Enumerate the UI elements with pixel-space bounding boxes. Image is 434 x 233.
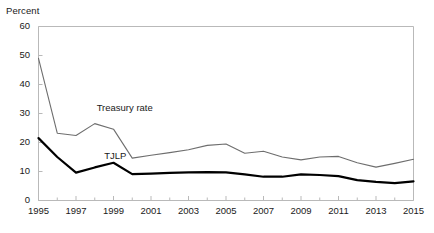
x-axis-tick-label: 1997: [59, 205, 93, 216]
x-axis-tick-label: 2015: [397, 205, 431, 216]
x-axis-tick-label: 2007: [247, 205, 281, 216]
y-axis-tick-label: 0: [8, 194, 30, 205]
series-annotation-label: TJLP: [104, 150, 126, 161]
y-axis-tick-label: 20: [8, 136, 30, 147]
x-axis-tick-label: 2005: [209, 205, 243, 216]
series-annotation-label: Treasury rate: [97, 102, 153, 113]
x-axis-tick-label: 2013: [359, 205, 393, 216]
y-axis-tick-label: 10: [8, 165, 30, 176]
y-axis-tick-label: 60: [8, 20, 30, 31]
x-axis-tick-label: 2001: [134, 205, 168, 216]
y-axis-tick-label: 30: [8, 107, 30, 118]
y-axis-tick-label: 50: [8, 49, 30, 60]
x-axis-tick-label: 2003: [172, 205, 206, 216]
x-axis-tick-label: 1999: [97, 205, 131, 216]
y-axis-tick-label: 40: [8, 78, 30, 89]
x-axis-tick-label: 2009: [284, 205, 318, 216]
x-axis-tick-label: 1995: [22, 205, 56, 216]
line-chart-plot: [0, 0, 434, 233]
x-axis-tick-label: 2011: [322, 205, 356, 216]
chart-container: Percent 0102030405060 199519971999200120…: [0, 0, 434, 233]
